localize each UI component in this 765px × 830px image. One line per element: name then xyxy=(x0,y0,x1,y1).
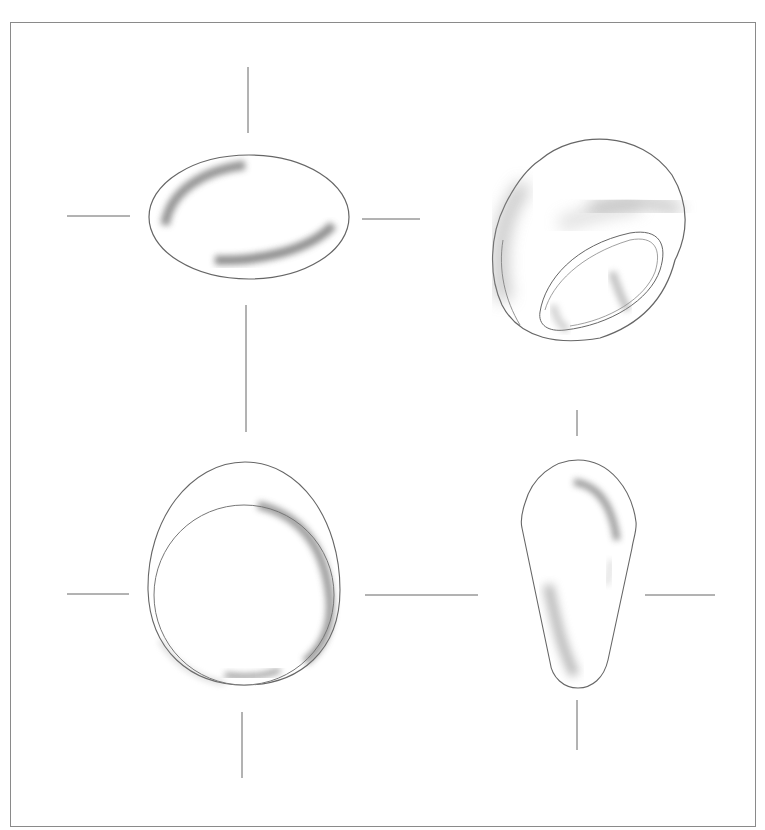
ring-drawing xyxy=(0,0,765,830)
top-view xyxy=(67,67,420,432)
side-view xyxy=(521,410,715,750)
front-view xyxy=(67,462,478,778)
perspective-view xyxy=(493,139,686,341)
